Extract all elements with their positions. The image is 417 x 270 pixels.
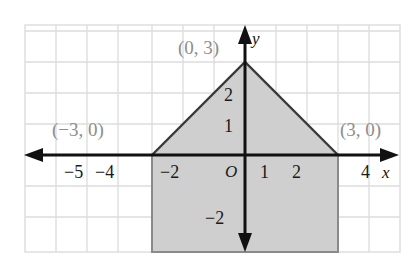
x-tick-label-4: 4 [361, 163, 370, 181]
x-tick-label-1: 1 [260, 163, 269, 181]
x-tick-label-2: 2 [292, 163, 301, 181]
point-label-apex: (0, 3) [178, 38, 219, 57]
x-axis-label: x [382, 164, 390, 181]
x-tick-label-neg4: −4 [95, 163, 114, 181]
x-tick-label-neg5: −5 [64, 163, 83, 181]
point-label-right-root: (3, 0) [340, 120, 381, 139]
y-tick-label-2: 2 [224, 86, 233, 104]
y-tick-label-neg2: −2 [205, 209, 224, 227]
graph-figure: (0, 3) (−3, 0) (3, 0) −5 −4 −2 1 2 4 2 1… [0, 0, 417, 270]
y-axis-label: y [252, 30, 260, 47]
x-tick-label-neg2: −2 [160, 163, 179, 181]
point-label-left-root: (−3, 0) [52, 120, 104, 139]
y-tick-label-1: 1 [224, 117, 233, 135]
origin-label: O [225, 163, 237, 180]
